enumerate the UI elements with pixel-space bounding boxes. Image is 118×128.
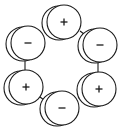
charge-ring-diagram [0, 0, 118, 128]
charge-nodes [4, 5, 117, 126]
charge-node-upper-right [78, 28, 117, 63]
diagram-canvas [0, 0, 118, 128]
charge-node-upper-left [6, 26, 45, 61]
charge-node-lower-right [77, 72, 116, 107]
charge-node-top [42, 5, 81, 40]
charge-node-bottom [40, 91, 79, 126]
charge-node-lower-left [4, 70, 43, 105]
